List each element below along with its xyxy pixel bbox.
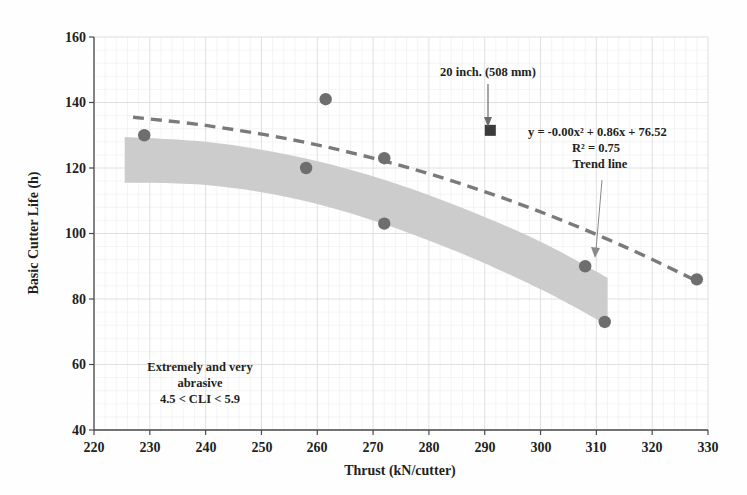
data-point-marker	[691, 273, 703, 285]
scatter-chart-canvas: 160 140 120 100 80 60 40 220 230 240 250…	[0, 0, 747, 495]
data-point-marker	[138, 129, 150, 141]
data-point-marker	[579, 260, 591, 272]
data-point-marker	[378, 217, 390, 229]
trend-equation-line: y = -0.00x² + 0.86x + 76.52	[528, 125, 667, 139]
y-axis-title: Basic Cutter Life (h)	[26, 171, 42, 294]
abrasivity-line-3: 4.5 < CLI < 5.9	[160, 392, 240, 406]
data-point-marker	[599, 316, 611, 328]
trend-line-label: Trend line	[573, 157, 628, 171]
x-tick-label-280: 280	[419, 440, 440, 455]
abrasivity-line-2: abrasive	[177, 376, 223, 390]
x-tick-label-250: 250	[252, 440, 273, 455]
x-tick-label-300: 300	[531, 440, 552, 455]
x-tick-label-290: 290	[475, 440, 496, 455]
y-tick-label-40: 40	[72, 423, 86, 438]
y-tick-label-80: 80	[72, 292, 86, 307]
y-tick-label-120: 120	[65, 161, 86, 176]
trend-r-squared-line: R² = 0.75	[572, 141, 620, 155]
x-tick-label-240: 240	[196, 440, 217, 455]
x-tick-label-230: 230	[140, 440, 161, 455]
y-tick-label-160: 160	[65, 30, 86, 45]
x-tick-label-320: 320	[642, 440, 663, 455]
x-axis-title: Thrust (kN/cutter)	[344, 463, 456, 479]
cutter-20inch-data-point	[485, 125, 496, 136]
chart-container: 160 140 120 100 80 60 40 220 230 240 250…	[0, 0, 747, 495]
x-tick-label-270: 270	[363, 440, 384, 455]
data-point-marker	[378, 152, 390, 164]
y-tick-label-140: 140	[65, 95, 86, 110]
x-tick-label-310: 310	[586, 440, 607, 455]
abrasivity-line-1: Extremely and very	[147, 360, 253, 374]
data-point-marker	[319, 93, 331, 105]
cutter-diameter-callout-label: 20 inch. (508 mm)	[440, 65, 536, 79]
y-tick-label-60: 60	[72, 357, 86, 372]
data-point-marker	[300, 162, 312, 174]
y-tick-label-100: 100	[65, 226, 86, 241]
cutter-20inch-marker	[485, 125, 496, 136]
x-tick-label-260: 260	[307, 440, 328, 455]
x-tick-label-330: 330	[698, 440, 719, 455]
x-tick-label-220: 220	[84, 440, 105, 455]
